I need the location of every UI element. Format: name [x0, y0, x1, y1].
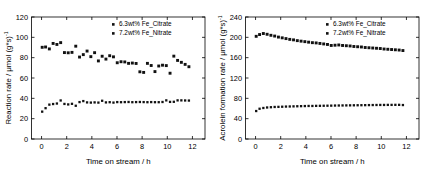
right-series-nitrate-points: [255, 104, 404, 113]
left-chart-svg: 024681012 020406080100120 Time on stream…: [0, 0, 214, 175]
data-point: [172, 55, 175, 58]
data-point: [108, 54, 111, 57]
data-point: [341, 104, 343, 106]
data-point: [157, 65, 160, 68]
data-point: [273, 35, 276, 38]
right-y-tick-labels: 04080120160200240: [230, 13, 242, 144]
x-tick-label: 2: [65, 142, 69, 151]
data-point: [127, 62, 130, 65]
y-tick-label: 100: [16, 33, 28, 42]
data-point: [300, 40, 303, 43]
svg-text:Time on stream / h: Time on stream / h: [300, 157, 365, 166]
data-point: [402, 104, 404, 106]
data-point: [326, 105, 328, 107]
data-point: [116, 101, 118, 103]
y-tick-label: 40: [234, 114, 242, 123]
data-point: [289, 105, 291, 107]
data-point: [120, 101, 122, 103]
legend-label: 6.3wt% Fe_Citrate: [333, 20, 386, 28]
data-point: [266, 106, 268, 108]
data-point: [349, 104, 351, 106]
y-tick-label: 0: [238, 135, 242, 144]
data-point: [360, 104, 362, 106]
left-x-tick-labels: 024681012: [39, 142, 196, 151]
data-point: [150, 101, 152, 103]
data-point: [97, 101, 99, 103]
y-tick-label: 120: [16, 13, 28, 22]
data-point: [330, 44, 333, 47]
data-point: [292, 38, 295, 41]
data-point: [71, 51, 74, 54]
data-point: [187, 65, 190, 68]
data-point: [334, 44, 337, 47]
x-tick-label: 10: [377, 142, 385, 151]
data-point: [255, 110, 257, 112]
data-point: [71, 103, 73, 105]
data-point: [86, 101, 88, 103]
x-tick-label: 8: [140, 142, 144, 151]
data-point: [101, 55, 104, 58]
data-point: [161, 64, 164, 67]
y-tick-label: 160: [230, 53, 242, 62]
data-point: [398, 104, 400, 106]
left-series-citrate-points: [41, 41, 191, 75]
data-point: [296, 105, 298, 107]
data-point: [307, 105, 309, 107]
data-point: [323, 105, 325, 107]
y-tick-label: 80: [20, 53, 28, 62]
data-point: [390, 104, 392, 106]
data-point: [127, 101, 129, 103]
data-point: [338, 104, 340, 106]
data-point: [82, 53, 85, 56]
data-point: [131, 62, 134, 65]
legend-marker: [326, 23, 329, 26]
data-point: [266, 33, 269, 36]
data-point: [67, 51, 70, 54]
two-panel-scatter-figure: 024681012 020406080100120 Time on stream…: [0, 0, 428, 175]
data-point: [52, 42, 55, 45]
data-point: [104, 58, 107, 61]
data-point: [52, 103, 54, 105]
data-point: [135, 101, 137, 103]
y-tick-label: 40: [20, 94, 28, 103]
data-point: [269, 34, 272, 37]
data-point: [59, 41, 62, 44]
data-point: [337, 44, 340, 47]
data-point: [120, 60, 123, 63]
data-point: [105, 101, 107, 103]
svg-text:Acrolein formation rate / μmo: Acrolein formation rate / μmol (g*s)-1: [217, 15, 227, 140]
x-tick-label: 4: [90, 142, 94, 151]
data-point: [109, 101, 111, 103]
data-point: [161, 101, 163, 103]
data-point: [277, 36, 280, 39]
data-point: [345, 44, 348, 47]
left-series-nitrate-points: [41, 99, 190, 113]
x-tick-label: 12: [402, 142, 410, 151]
data-point: [146, 62, 149, 65]
data-point: [285, 37, 288, 40]
data-point: [387, 104, 389, 106]
data-point: [139, 101, 141, 103]
left-x-axis-title: Time on stream / h: [86, 157, 151, 166]
data-point: [169, 101, 171, 103]
data-point: [368, 104, 370, 106]
data-point: [138, 70, 141, 73]
data-point: [277, 106, 279, 108]
data-point: [93, 51, 96, 54]
svg-text:Reaction rate / μmol (g*s)-1: Reaction rate / μmol (g*s)-1: [3, 31, 13, 124]
x-tick-label: 6: [115, 142, 119, 151]
data-point: [56, 102, 58, 104]
right-y-axis-title: Acrolein formation rate / μmol (g*s)-1: [217, 15, 227, 140]
data-point: [112, 101, 114, 103]
data-point: [93, 101, 95, 103]
data-point: [67, 103, 69, 105]
data-point: [63, 51, 66, 54]
x-tick-label: 8: [354, 142, 358, 151]
data-point: [372, 104, 374, 106]
data-point: [176, 99, 178, 101]
data-point: [258, 33, 261, 36]
data-point: [349, 45, 352, 48]
left-y-axis-title: Reaction rate / μmol (g*s)-1: [3, 31, 13, 124]
right-x-tick-labels: 024681012: [253, 142, 410, 151]
data-point: [371, 47, 374, 50]
